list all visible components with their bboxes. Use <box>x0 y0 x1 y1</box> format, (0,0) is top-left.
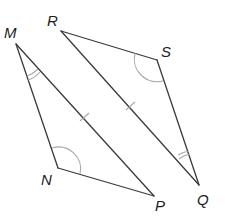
vertex-label-p: P <box>155 197 165 214</box>
vertex-label-r: R <box>47 12 58 29</box>
side-mn <box>16 44 58 168</box>
vertex-label-q: Q <box>197 191 209 208</box>
side-mp <box>16 44 154 196</box>
vertex-label-s: S <box>161 43 171 60</box>
triangle-rsq <box>61 31 199 185</box>
side-sq <box>157 60 199 185</box>
side-rs <box>61 31 157 60</box>
side-np <box>58 168 154 196</box>
congruent-triangles-diagram: M R S N P Q <box>0 0 228 216</box>
triangle-mnp <box>16 44 154 196</box>
angle-q-double-arc-outer <box>179 154 190 159</box>
side-rq <box>61 31 199 185</box>
vertex-label-m: M <box>4 24 17 41</box>
angle-m-double-arc-inner <box>28 72 40 80</box>
vertex-label-n: N <box>41 171 52 188</box>
